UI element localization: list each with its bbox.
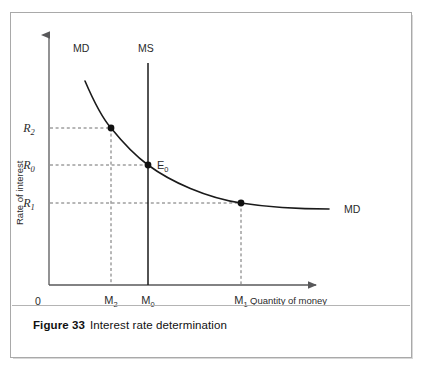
label-md-right: MD: [344, 203, 361, 215]
y-tick-r2-sub: 2: [31, 127, 36, 137]
point-r2-m2: [108, 125, 115, 132]
plot-area: MD MS MD E0 R2 R0 R1: [11, 13, 411, 313]
figure-caption-text: Interest rate determination: [90, 319, 227, 331]
y-tick-r1-sub: 1: [31, 202, 35, 212]
equilibrium-base: E: [157, 159, 164, 171]
figure-container: MD MS MD E0 R2 R0 R1: [0, 0, 425, 371]
x-tick-label-m1: M1: [234, 294, 247, 309]
figure-caption: Figure 33Interest rate determination: [33, 319, 393, 331]
y-tick-label-r2: R2: [22, 121, 35, 137]
interest-rate-determination-chart: MD MS MD E0 R2 R0 R1: [11, 13, 411, 313]
x-tick-label-m0: M0: [141, 294, 154, 309]
label-md-top: MD: [73, 42, 90, 54]
figure-frame: MD MS MD E0 R2 R0 R1: [10, 12, 412, 358]
equilibrium-subscript: 0: [164, 165, 168, 174]
caption-divider: [12, 305, 410, 306]
money-demand-curve: [85, 81, 329, 209]
y-axis-title: Rate of interest: [14, 160, 25, 225]
y-tick-r0-sub: 0: [31, 164, 36, 174]
point-r1-m1: [238, 200, 245, 207]
x-tick-label-m2: M2: [104, 294, 117, 309]
figure-caption-label: Figure 33: [33, 319, 85, 331]
point-equilibrium-e0: [145, 162, 152, 169]
label-ms: MS: [138, 42, 154, 54]
